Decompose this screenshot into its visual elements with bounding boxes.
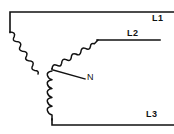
label-l2: L2 bbox=[127, 29, 138, 38]
l1-conductor bbox=[10, 12, 174, 33]
winding-l3 bbox=[47, 71, 52, 120]
label-l3: L3 bbox=[146, 110, 157, 119]
star-connection-diagram: L1 L2 L3 N bbox=[0, 0, 174, 134]
neutral-star-point bbox=[51, 68, 53, 70]
winding-l1 bbox=[10, 32, 38, 74]
label-neutral: N bbox=[87, 73, 94, 82]
l3-conductor bbox=[52, 119, 174, 125]
winding-l2 bbox=[52, 40, 98, 69]
neutral-leader-line bbox=[53, 70, 85, 79]
label-l1: L1 bbox=[152, 14, 163, 23]
